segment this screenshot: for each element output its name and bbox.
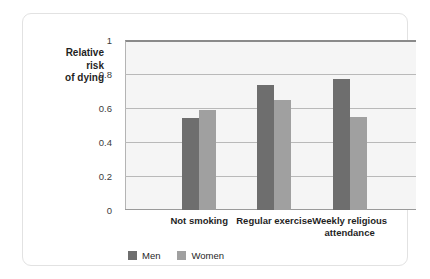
plot-wrapper (125, 40, 416, 210)
legend-swatch-icon (177, 251, 186, 260)
chart-legend: MenWomen (128, 250, 224, 261)
legend-label: Women (191, 250, 224, 261)
y-axis-tick-label: 0.8 (72, 69, 112, 80)
y-axis-label-line-1: Relative (48, 47, 104, 60)
y-axis-tick-label: 0.6 (72, 103, 112, 114)
bar-group (333, 40, 367, 210)
bar-men (182, 118, 199, 210)
legend-item: Men (128, 250, 160, 261)
x-axis-label-line: attendance (295, 227, 405, 239)
bar-group (182, 40, 216, 210)
legend-label: Men (142, 250, 160, 261)
x-axis-label-line: Weekly religious (295, 215, 405, 227)
bar-women (199, 110, 216, 210)
bar-group (257, 40, 291, 210)
bar-women (350, 117, 367, 211)
y-axis-tick-label: 1 (72, 35, 112, 46)
bar-men (257, 85, 274, 210)
x-axis-label: Weekly religiousattendance (295, 215, 405, 238)
y-axis-tick-label: 0.4 (72, 137, 112, 148)
legend-item: Women (177, 250, 224, 261)
bar-women (274, 100, 291, 211)
y-axis-tick-label: 0 (72, 205, 112, 216)
y-axis-tick-label: 0.2 (72, 171, 112, 182)
legend-swatch-icon (128, 251, 137, 260)
bar-men (333, 79, 350, 210)
chart-card: Relative risk of dying 00.20.40.60.81 No… (22, 13, 408, 266)
